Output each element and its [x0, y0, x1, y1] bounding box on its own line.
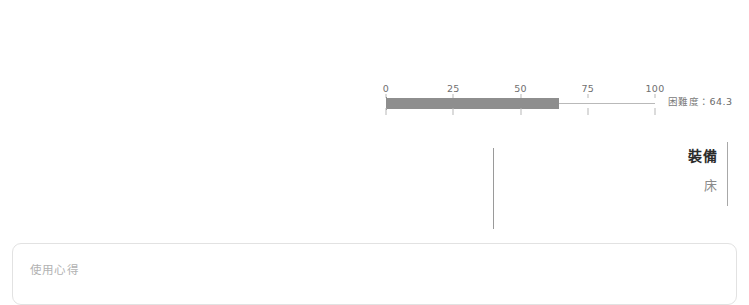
gauge-tick-mark-bottom-50: [520, 108, 521, 115]
spec-block: 裝備 床: [598, 146, 718, 196]
gauge-fill-bar[interactable]: [386, 98, 559, 109]
difficulty-readout-separator: ：: [699, 96, 709, 107]
gauge-tick-label-50: 50: [514, 83, 527, 94]
difficulty-gauge[interactable]: 0 25 50 75 100: [386, 83, 655, 113]
gauge-tick-label-0: 0: [383, 83, 389, 94]
comment-input[interactable]: 使用心得: [12, 243, 737, 305]
comment-placeholder: 使用心得: [30, 262, 79, 278]
spec-divider: [727, 142, 728, 206]
gauge-tick-label-25: 25: [447, 83, 460, 94]
difficulty-readout-label: 困難度: [668, 96, 699, 107]
spec-title: 裝備: [598, 146, 718, 166]
gauge-tick-mark-bottom-0: [386, 108, 387, 115]
gauge-tick-label-100: 100: [645, 83, 664, 94]
spec-value: 床: [598, 176, 718, 196]
gauge-tick-mark-top-100: [655, 94, 656, 98]
gauge-tick-mark-bottom-75: [587, 108, 588, 115]
difficulty-readout: 困難度：64.3: [668, 95, 732, 108]
gauge-tick-mark-bottom-100: [655, 108, 656, 115]
gauge-tick-mark-top-75: [587, 94, 588, 98]
gauge-tick-mark-bottom-25: [453, 108, 454, 115]
difficulty-readout-value: 64.3: [710, 96, 733, 107]
center-divider: [493, 148, 494, 229]
gauge-tick-label-75: 75: [581, 83, 594, 94]
